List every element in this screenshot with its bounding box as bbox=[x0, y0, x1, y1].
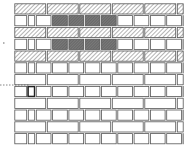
header-brick bbox=[85, 86, 100, 96]
stretcher-brick bbox=[145, 4, 176, 14]
stretcher-brick bbox=[15, 75, 46, 85]
stretcher-brick bbox=[15, 51, 46, 61]
stretcher-brick bbox=[112, 51, 143, 61]
header-brick bbox=[53, 63, 68, 73]
shaded-header-brick bbox=[85, 16, 100, 26]
header-brick bbox=[15, 86, 27, 96]
stretcher-brick bbox=[177, 51, 183, 61]
header-brick bbox=[167, 39, 182, 49]
stretcher-brick bbox=[80, 4, 111, 14]
header-brick bbox=[118, 134, 133, 144]
header-brick bbox=[167, 86, 182, 96]
header-brick bbox=[150, 134, 165, 144]
stretcher-brick bbox=[47, 122, 78, 132]
stretcher-brick bbox=[80, 122, 111, 132]
closer-brick bbox=[28, 134, 34, 144]
stretcher-brick bbox=[80, 75, 111, 85]
stretcher-brick bbox=[177, 98, 183, 108]
header-brick bbox=[85, 63, 100, 73]
brick-courses bbox=[15, 4, 183, 144]
shaded-header-brick bbox=[53, 39, 68, 49]
header-brick bbox=[53, 110, 68, 120]
header-brick bbox=[36, 63, 51, 73]
stretcher-brick bbox=[15, 122, 46, 132]
header-brick bbox=[118, 110, 133, 120]
closer-brick bbox=[28, 39, 34, 49]
header-brick bbox=[167, 134, 182, 144]
header-brick bbox=[150, 16, 165, 26]
header-brick bbox=[15, 16, 27, 26]
shaded-header-brick bbox=[85, 39, 100, 49]
closer-brick bbox=[28, 110, 34, 120]
stretcher-brick bbox=[145, 51, 176, 61]
header-brick bbox=[15, 63, 27, 73]
stretcher-brick bbox=[15, 98, 46, 108]
shaded-header-brick bbox=[102, 39, 117, 49]
closer-brick bbox=[28, 86, 34, 96]
header-brick bbox=[167, 16, 182, 26]
header-brick bbox=[69, 134, 84, 144]
header-brick bbox=[134, 134, 149, 144]
shaded-header-brick bbox=[53, 16, 68, 26]
brick-wall-diagram bbox=[0, 0, 196, 163]
stretcher-brick bbox=[177, 27, 183, 37]
header-brick bbox=[118, 16, 133, 26]
closer-brick bbox=[28, 16, 34, 26]
header-brick bbox=[69, 110, 84, 120]
header-brick bbox=[36, 110, 51, 120]
stretcher-brick bbox=[145, 122, 176, 132]
header-brick bbox=[118, 86, 133, 96]
stretcher-brick bbox=[47, 98, 78, 108]
stretcher-brick bbox=[112, 4, 143, 14]
header-brick bbox=[134, 16, 149, 26]
shaded-header-brick bbox=[102, 16, 117, 26]
header-brick bbox=[134, 63, 149, 73]
stretcher-brick bbox=[112, 122, 143, 132]
closer-brick bbox=[28, 63, 34, 73]
stretcher-brick bbox=[80, 98, 111, 108]
header-brick bbox=[134, 86, 149, 96]
wall-drawing bbox=[0, 0, 196, 163]
stretcher-brick bbox=[47, 27, 78, 37]
header-brick bbox=[15, 134, 27, 144]
header-brick bbox=[134, 39, 149, 49]
header-brick bbox=[36, 134, 51, 144]
header-brick bbox=[53, 86, 68, 96]
stretcher-brick bbox=[47, 75, 78, 85]
stretcher-brick bbox=[177, 122, 183, 132]
stretcher-brick bbox=[15, 4, 46, 14]
header-brick bbox=[85, 110, 100, 120]
header-brick bbox=[15, 39, 27, 49]
stretcher-brick bbox=[145, 75, 176, 85]
stretcher-brick bbox=[112, 27, 143, 37]
stretcher-brick bbox=[15, 27, 46, 37]
stretcher-brick bbox=[145, 98, 176, 108]
header-brick bbox=[102, 86, 117, 96]
shaded-header-brick bbox=[69, 16, 84, 26]
header-brick bbox=[118, 39, 133, 49]
stretcher-brick bbox=[112, 75, 143, 85]
stretcher-brick bbox=[112, 98, 143, 108]
header-brick bbox=[69, 63, 84, 73]
header-brick bbox=[102, 63, 117, 73]
header-brick bbox=[150, 110, 165, 120]
header-brick bbox=[150, 39, 165, 49]
header-brick bbox=[150, 63, 165, 73]
header-brick bbox=[36, 86, 51, 96]
header-brick bbox=[85, 134, 100, 144]
stretcher-brick bbox=[47, 4, 78, 14]
stretcher-brick bbox=[177, 4, 183, 14]
stretcher-brick bbox=[145, 27, 176, 37]
header-brick bbox=[150, 86, 165, 96]
header-brick bbox=[36, 16, 51, 26]
header-brick bbox=[15, 110, 27, 120]
header-brick bbox=[118, 63, 133, 73]
header-brick bbox=[134, 110, 149, 120]
stretcher-brick bbox=[80, 51, 111, 61]
header-brick bbox=[53, 134, 68, 144]
stretcher-brick bbox=[47, 51, 78, 61]
header-brick bbox=[36, 39, 51, 49]
header-brick bbox=[102, 134, 117, 144]
header-brick bbox=[167, 63, 182, 73]
shaded-header-brick bbox=[69, 39, 84, 49]
